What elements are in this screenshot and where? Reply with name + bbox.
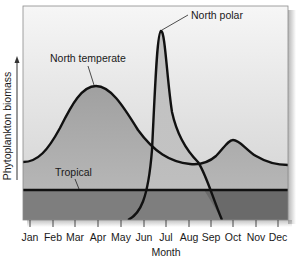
tick-label-mar: Mar xyxy=(66,231,85,243)
tick-label-may: May xyxy=(111,231,132,243)
tick-label-nov: Nov xyxy=(247,231,266,243)
frame-shadow-bottom xyxy=(27,220,292,227)
tick-label-jul: Jul xyxy=(159,231,172,243)
label-north-temperate: North temperate xyxy=(50,52,126,64)
frame-shadow-right xyxy=(288,10,296,224)
tick-label-feb: Feb xyxy=(44,231,62,243)
chart: Jan Feb Mar Apr May Jun Jul Aug Sep Oct … xyxy=(0,0,298,257)
label-tropical: Tropical xyxy=(55,166,92,178)
tick-label-jun: Jun xyxy=(136,231,153,243)
tick-label-aug: Aug xyxy=(180,231,199,243)
tick-label-dec: Dec xyxy=(269,231,288,243)
label-north-polar: North polar xyxy=(191,9,243,21)
tick-label-oct: Oct xyxy=(225,231,241,243)
x-axis-label: Month xyxy=(151,246,180,257)
y-axis-label: Phytoplankton biomass xyxy=(1,72,13,181)
tick-label-jan: Jan xyxy=(22,231,39,243)
tick-label-apr: Apr xyxy=(90,231,107,243)
y-axis-arrow-icon xyxy=(15,56,20,180)
tick-label-sep: Sep xyxy=(202,231,221,243)
x-axis-tick-labels: Jan Feb Mar Apr May Jun Jul Aug Sep Oct … xyxy=(22,231,288,243)
